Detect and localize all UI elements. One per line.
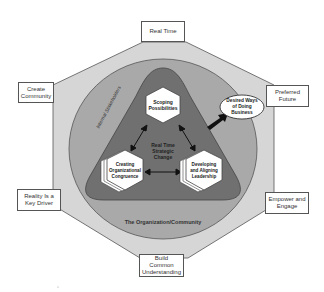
- organization-community-label: The Organization/Community: [125, 219, 203, 225]
- svg-text:Desired Ways: Desired Ways: [226, 98, 258, 103]
- center-label: Real Time Strategic Change: [151, 142, 175, 160]
- svg-text:Congruence: Congruence: [112, 174, 139, 179]
- svg-text:Change: Change: [154, 154, 173, 160]
- strategic-change-diagram: Internal Stakeholders The Organization/C…: [0, 0, 324, 292]
- label-preferred-future: Preferred Future: [266, 85, 309, 107]
- label-build-common-understanding: Build Common Understanding: [139, 254, 184, 277]
- svg-text:Developing: Developing: [192, 162, 217, 167]
- svg-text:of Doing: of Doing: [232, 104, 252, 109]
- svg-text:Organizational: Organizational: [109, 168, 141, 173]
- label-empower-engage: Empower and Engage: [265, 192, 309, 214]
- label-real-time: Real Time: [141, 21, 185, 42]
- svg-text:Leadership: Leadership: [192, 174, 217, 179]
- svg-text:Business: Business: [231, 110, 253, 115]
- svg-text:Creating: Creating: [116, 162, 135, 167]
- svg-text:and Aligning: and Aligning: [190, 168, 218, 173]
- speck: [57, 286, 58, 287]
- svg-text:Possibilities: Possibilities: [148, 105, 177, 111]
- desired-ways-outcome: Desired Ways of Doing Business: [220, 95, 264, 119]
- label-reality-key-driver: Reality Is a Key Driver: [17, 189, 61, 211]
- label-create-community: Create Community: [18, 82, 54, 103]
